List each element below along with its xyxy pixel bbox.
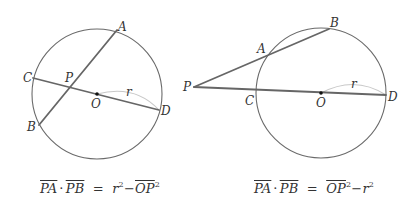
right-formula-minus: − [351, 181, 362, 196]
left-formula-pa: PA [40, 181, 57, 196]
left-formula-op: OP [135, 181, 155, 196]
left-label-d: D [160, 104, 171, 118]
right-formula-pb: PB [280, 181, 299, 196]
right-label-b: B [329, 16, 339, 30]
right-label-r: r [351, 77, 358, 91]
left-formula-minus: − [124, 181, 135, 196]
right-label-o: O [316, 96, 326, 110]
left-label-a: A [117, 20, 127, 34]
right-formula-op: OP [326, 181, 346, 196]
right-center-point [319, 91, 323, 95]
left-label-r: r [126, 85, 133, 99]
left-formula-op-exp: 2 [155, 180, 160, 189]
right-formula-r-exp: 2 [369, 180, 374, 189]
right-label-d: D [387, 90, 398, 104]
right-secant-pcd [194, 87, 386, 95]
left-label-p: P [64, 71, 74, 85]
left-label-b: B [26, 120, 36, 134]
right-formula-pa: PA [254, 181, 271, 196]
right-figure: A B C D P O r [182, 16, 398, 158]
power-of-a-point-diagram: A B C D P O r A B C D P O r [0, 0, 418, 207]
left-center-point [95, 92, 99, 96]
right-formula-equals: = [307, 181, 318, 196]
right-label-c: C [245, 94, 254, 108]
left-formula-dot: · [59, 181, 63, 196]
left-formula-pb: PB [66, 181, 85, 196]
right-secant-pab [194, 29, 329, 87]
right-formula: PA·PB = OP2−r2 [254, 180, 374, 196]
right-formula-dot: · [273, 181, 277, 196]
left-label-o: O [91, 97, 101, 111]
left-formula-equals: = [93, 181, 104, 196]
left-label-c: C [23, 71, 32, 85]
left-figure: A B C D P O r [23, 20, 171, 159]
right-label-a: A [256, 42, 266, 56]
left-formula: PA·PB = r2−OP2 [40, 180, 160, 196]
left-chord-ab [39, 30, 117, 125]
right-label-p: P [182, 80, 192, 94]
